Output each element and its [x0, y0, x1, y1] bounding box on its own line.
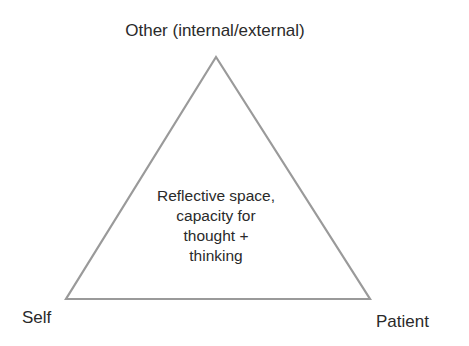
vertex-label-patient: Patient: [376, 312, 429, 332]
vertex-label-self: Self: [22, 308, 51, 328]
triangle-shape: [0, 0, 469, 346]
center-text-line: Reflective space,: [136, 186, 296, 206]
vertex-label-other: Other (internal/external): [104, 21, 326, 41]
center-text-line: thought +: [136, 226, 296, 246]
center-text-line: thinking: [136, 246, 296, 266]
center-text-line: capacity for: [136, 206, 296, 226]
center-text: Reflective space, capacity for thought +…: [136, 186, 296, 266]
